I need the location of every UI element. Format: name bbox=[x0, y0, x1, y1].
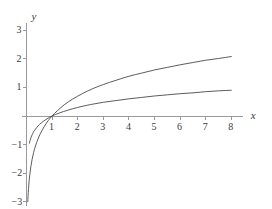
x-tick-label-2: 2 bbox=[75, 122, 80, 132]
y-tick-label-1: 1 bbox=[17, 82, 22, 92]
x-tick-label-7: 7 bbox=[203, 122, 208, 132]
plot-canvas bbox=[0, 0, 272, 209]
x-tick-label-4: 4 bbox=[126, 122, 131, 132]
y-tick-label-2: 2 bbox=[17, 54, 22, 64]
y-tick-label--3: −3 bbox=[12, 197, 23, 207]
y-tick-label-3: 3 bbox=[17, 25, 22, 35]
x-tick-label-3: 3 bbox=[100, 122, 105, 132]
x-tick-label-1: 1 bbox=[49, 122, 54, 132]
curve-log10-curve bbox=[29, 90, 231, 143]
chart-figure: y x 12345678−3−2−1123 bbox=[0, 0, 272, 209]
x-axis-label: x bbox=[251, 110, 256, 121]
y-axis-label: y bbox=[32, 11, 37, 22]
x-tick-label-6: 6 bbox=[177, 122, 182, 132]
y-tick-label--2: −2 bbox=[12, 168, 23, 178]
y-tick-label--1: −1 bbox=[12, 140, 23, 150]
x-tick-label-5: 5 bbox=[152, 122, 157, 132]
x-tick-label-8: 8 bbox=[228, 122, 233, 132]
